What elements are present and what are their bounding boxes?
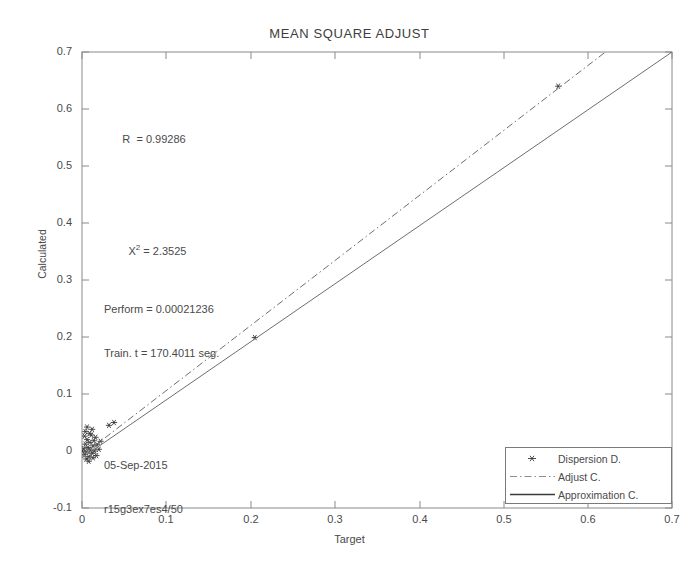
chi-value: = 2.3525	[140, 245, 186, 257]
model-metrics: X2 = 2.3525 Perform = 0.00021236 Train. …	[104, 201, 219, 390]
legend-item-dispersion: Dispersion D.	[506, 449, 671, 468]
run-id: r15g3ex7es4/50	[104, 502, 219, 517]
correlation-line: R = 0.99286	[104, 117, 219, 161]
x-tick-label: 0.4	[400, 513, 440, 525]
y-tick-label: 0.5	[32, 159, 72, 171]
legend-label-approximation: Approximation C.	[558, 489, 639, 501]
y-tick-label: 0.4	[32, 216, 72, 228]
chi-square-line: X2 = 2.3525	[104, 230, 219, 274]
legend-label-dispersion: Dispersion D.	[558, 453, 621, 465]
y-tick-label: 0.6	[32, 102, 72, 114]
perform-line: Perform = 0.00021236	[104, 302, 219, 317]
asterisk-marker-icon	[506, 449, 558, 468]
y-tick-label: 0.7	[32, 45, 72, 57]
legend-item-adjust: Adjust C.	[506, 467, 671, 486]
run-info: 05-Sep-2015 r15g3ex7es4/50	[104, 429, 219, 545]
figure-canvas: MEAN SQUARE ADJUST Target Calculated 0.7…	[0, 0, 699, 579]
legend-label-adjust: Adjust C.	[558, 471, 601, 483]
x-tick-label: 0.6	[568, 513, 608, 525]
dash-dot-line-icon	[506, 467, 558, 486]
chi-symbol: X	[128, 245, 135, 257]
solid-line-icon	[506, 485, 558, 504]
x-tick-label: 0.3	[315, 513, 355, 525]
train-time-line: Train. t = 170.4011 seg.	[104, 346, 219, 361]
statistics-annotation: R = 0.99286 X2 = 2.3525 Perform = 0.0002…	[104, 88, 219, 574]
run-date: 05-Sep-2015	[104, 458, 219, 473]
x-tick-label: 0.7	[652, 513, 692, 525]
y-tick-label: 0.1	[32, 387, 72, 399]
y-tick-label: 0	[32, 444, 72, 456]
legend-item-approximation: Approximation C.	[506, 485, 671, 504]
correlation-value: R = 0.99286	[122, 133, 185, 145]
x-tick-label: 0.2	[231, 513, 271, 525]
chart-title: MEAN SQUARE ADJUST	[0, 26, 699, 41]
legend: Dispersion D. Adjust C. Approximation C.	[505, 447, 672, 504]
x-tick-label: 0	[62, 513, 102, 525]
y-tick-label: 0.3	[32, 273, 72, 285]
y-tick-label: -0.1	[32, 501, 72, 513]
x-tick-label: 0.5	[484, 513, 524, 525]
y-tick-label: 0.2	[32, 330, 72, 342]
